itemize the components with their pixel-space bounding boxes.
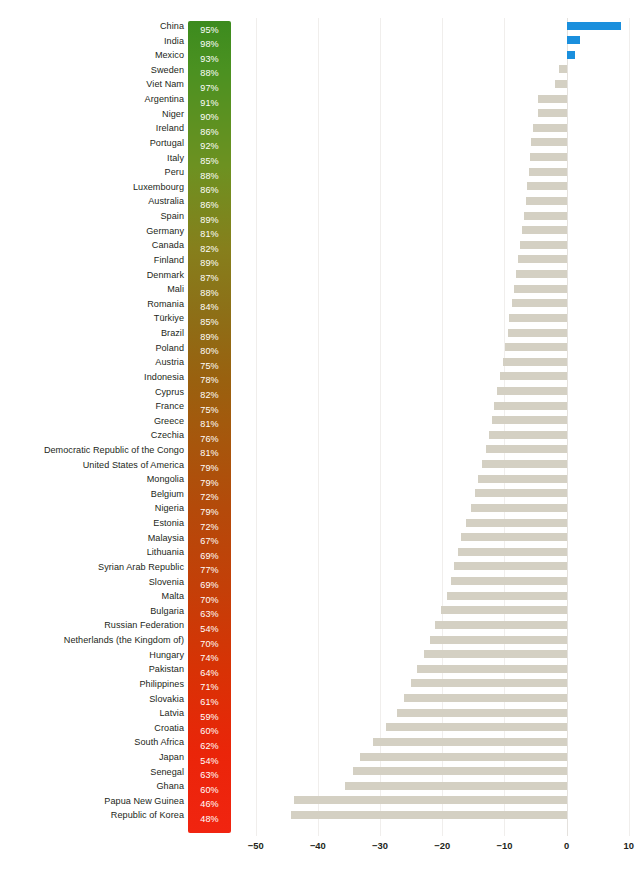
x-tick-label: −20 [434, 840, 450, 851]
percentage-value: 86% [188, 127, 231, 137]
country-label: Finland [0, 255, 184, 265]
country-label: Senegal [0, 767, 184, 777]
bar-negative [475, 489, 567, 497]
country-label: United States of America [0, 460, 184, 470]
country-label: Italy [0, 153, 184, 163]
percentage-value: 81% [188, 419, 231, 429]
percentage-value: 81% [188, 448, 231, 458]
gridline-10 [629, 18, 630, 836]
percentage-value: 82% [188, 390, 231, 400]
percentage-value: 64% [188, 668, 231, 678]
percentage-value: 91% [188, 98, 231, 108]
bar-positive [567, 51, 576, 59]
percentage-value: 89% [188, 215, 231, 225]
bar-negative [538, 95, 567, 103]
country-label: Mongolia [0, 474, 184, 484]
percentage-value: 79% [188, 507, 231, 517]
bar-negative [404, 694, 566, 702]
bar-negative [538, 109, 567, 117]
bar-negative [522, 226, 567, 234]
percentage-value: 88% [188, 288, 231, 298]
percentage-value: 54% [188, 756, 231, 766]
percentage-value: 69% [188, 551, 231, 561]
country-label: Australia [0, 196, 184, 206]
percentage-value: 67% [188, 536, 231, 546]
bar-negative [529, 168, 567, 176]
percentage-value: 75% [188, 361, 231, 371]
bar-positive [567, 22, 621, 30]
bar-negative [454, 562, 567, 570]
country-label-column: ChinaIndiaMexicoSwedenViet NamArgentinaN… [0, 18, 188, 836]
country-label: Peru [0, 167, 184, 177]
bar-negative [482, 460, 567, 468]
bar-negative [509, 314, 566, 322]
gridline--30 [380, 18, 381, 836]
country-label: Germany [0, 226, 184, 236]
bar-negative [489, 431, 567, 439]
bar-negative [411, 679, 566, 687]
percentage-value: 63% [188, 770, 231, 780]
bar-negative [524, 212, 566, 220]
bar-negative [435, 621, 566, 629]
bar-positive [567, 36, 580, 44]
percentage-value: 86% [188, 200, 231, 210]
bar-negative [386, 723, 567, 731]
country-label: Papua New Guinea [0, 796, 184, 806]
percentage-value: 63% [188, 609, 231, 619]
country-label: Republic of Korea [0, 810, 184, 820]
bar-negative [345, 782, 566, 790]
bar-negative [441, 606, 567, 614]
country-label: Denmark [0, 270, 184, 280]
percentage-value: 79% [188, 463, 231, 473]
percentage-value: 74% [188, 653, 231, 663]
country-label: Viet Nam [0, 79, 184, 89]
percentage-value: 88% [188, 171, 231, 181]
percentage-value: 70% [188, 639, 231, 649]
country-label: Austria [0, 357, 184, 367]
country-label: Spain [0, 211, 184, 221]
percentage-value: 80% [188, 346, 231, 356]
percentage-gradient-strip: 95%98%93%88%97%91%90%86%92%85%88%86%86%8… [188, 21, 231, 833]
bar-negative [508, 329, 567, 337]
x-axis: −50−40−30−20−10010 [237, 840, 635, 860]
bar-negative [291, 811, 566, 819]
percentage-value: 60% [188, 726, 231, 736]
percentage-value: 89% [188, 258, 231, 268]
bar-negative [533, 124, 567, 132]
gridline-0 [567, 18, 568, 836]
bar-negative [555, 80, 567, 88]
bar-negative [461, 533, 566, 541]
bar-negative [531, 138, 566, 146]
country-label: Estonia [0, 518, 184, 528]
country-label: Luxembourg [0, 182, 184, 192]
bar-negative [353, 767, 567, 775]
gridline--40 [318, 18, 319, 836]
country-label: Bulgaria [0, 606, 184, 616]
bar-negative [466, 519, 566, 527]
country-label: Brazil [0, 328, 184, 338]
percentage-value: 72% [188, 522, 231, 532]
bar-negative [559, 65, 567, 73]
percentage-value: 72% [188, 492, 231, 502]
country-label: Portugal [0, 138, 184, 148]
bar-negative [430, 636, 567, 644]
country-label: Mexico [0, 50, 184, 60]
percentage-value: 70% [188, 595, 231, 605]
country-label: China [0, 21, 184, 31]
bar-negative [424, 650, 567, 658]
country-label: South Africa [0, 737, 184, 747]
percentage-value: 97% [188, 83, 231, 93]
percentage-value: 92% [188, 141, 231, 151]
country-label: Malaysia [0, 533, 184, 543]
bar-negative [526, 197, 567, 205]
percentage-value: 60% [188, 785, 231, 795]
bar-negative [294, 796, 566, 804]
country-label: Poland [0, 343, 184, 353]
bar-negative [518, 255, 567, 263]
country-label: Argentina [0, 94, 184, 104]
country-label: Democratic Republic of the Congo [0, 445, 184, 455]
country-label: France [0, 401, 184, 411]
percentage-value: 46% [188, 799, 231, 809]
country-label: Lithuania [0, 547, 184, 557]
country-label: Romania [0, 299, 184, 309]
